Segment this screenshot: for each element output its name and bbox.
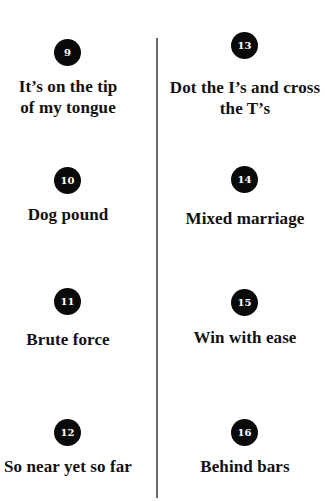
column-divider	[156, 38, 158, 498]
idiom-label-14: Mixed marriage	[160, 208, 325, 229]
number-badge-15: 15	[231, 289, 258, 316]
idiom-label-line: Dot the I’s and cross	[160, 77, 325, 98]
idiom-label-10: Dog pound	[0, 204, 153, 225]
idiom-label-line: So near yet so far	[0, 456, 153, 477]
number-badge-12: 12	[54, 419, 81, 446]
number-badge-13: 13	[231, 32, 258, 59]
idiom-label-line: Behind bars	[160, 456, 325, 477]
idiom-label-13: Dot the I’s and cross the T’s	[160, 77, 325, 119]
idiom-label-line: Mixed marriage	[160, 208, 325, 229]
idiom-label-9: It’s on the tip of my tongue	[0, 76, 153, 118]
number-badge-11: 11	[54, 288, 81, 315]
idiom-label-15: Win with ease	[160, 327, 325, 348]
idiom-label-16: Behind bars	[160, 456, 325, 477]
idiom-label-line: Win with ease	[160, 327, 325, 348]
idiom-label-line: of my tongue	[0, 97, 153, 118]
number-badge-14: 14	[231, 166, 258, 193]
number-badge-16: 16	[231, 419, 258, 446]
number-badge-9: 9	[54, 39, 81, 66]
idiom-label-11: Brute force	[0, 329, 153, 350]
idiom-label-line: Dog pound	[0, 204, 153, 225]
idiom-label-12: So near yet so far	[0, 456, 153, 477]
number-badge-10: 10	[54, 167, 81, 194]
idiom-label-line: the T’s	[160, 98, 325, 119]
idiom-label-line: Brute force	[0, 329, 153, 350]
idiom-label-line: It’s on the tip	[0, 76, 153, 97]
